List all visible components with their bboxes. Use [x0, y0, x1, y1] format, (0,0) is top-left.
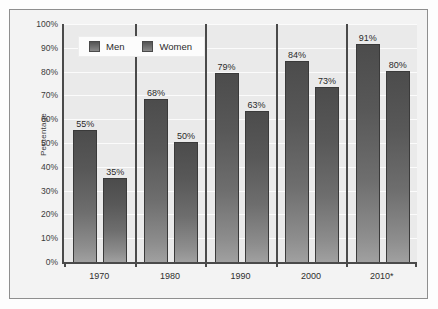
y-axis-tick-label: 10%: [41, 233, 58, 243]
bar-value-label: 73%: [318, 76, 336, 86]
x-axis-tick-label: 1980: [160, 271, 180, 281]
category-separator: [205, 24, 207, 262]
bar: 79%: [215, 73, 239, 262]
x-axis-tick-label: 2010*: [370, 271, 394, 281]
x-axis-tick-label: 1990: [230, 271, 250, 281]
bar-value-label: 35%: [106, 167, 124, 177]
y-axis-tick-label: 100%: [36, 19, 58, 29]
x-axis-tick: [135, 262, 137, 267]
y-axis-tick-label: 20%: [41, 209, 58, 219]
bar-value-label: 68%: [147, 88, 165, 98]
bar-value-label: 55%: [76, 119, 94, 129]
bar-value-label: 50%: [177, 131, 195, 141]
legend-label: Women: [159, 41, 192, 52]
y-axis-tick-label: 70%: [41, 90, 58, 100]
y-axis-tick-label: 80%: [41, 67, 58, 77]
y-axis-tick-label: 40%: [41, 162, 58, 172]
x-axis-tick: [64, 262, 66, 267]
x-axis-tick-label: 1970: [89, 271, 109, 281]
bar: 35%: [103, 178, 127, 262]
x-axis-tick: [415, 262, 417, 267]
y-axis-tick-label: 60%: [41, 114, 58, 124]
bar: 80%: [386, 71, 410, 262]
bar: 91%: [356, 44, 380, 262]
chart-frame: Percentage 0%10%20%30%40%50%60%70%80%90%…: [9, 9, 428, 299]
plot-wrapper: 0%10%20%30%40%50%60%70%80%90%100% 55%35%…: [62, 24, 415, 262]
bar-value-label: 63%: [247, 100, 265, 110]
bar-value-label: 91%: [359, 33, 377, 43]
chart-figure: Percentage 0%10%20%30%40%50%60%70%80%90%…: [0, 0, 438, 309]
y-axis-tick-label: 90%: [41, 43, 58, 53]
legend-entry: Women: [142, 41, 192, 52]
legend-swatch-icon: [89, 41, 100, 52]
category-separator: [346, 24, 348, 262]
bar: 68%: [144, 99, 168, 262]
legend-swatch-icon: [142, 41, 153, 52]
bar: 55%: [73, 130, 97, 262]
y-axis-tick-label: 50%: [41, 138, 58, 148]
y-axis-tick-label: 0%: [46, 257, 58, 267]
x-axis-tick: [205, 262, 207, 267]
x-axis-tick-label: 2000: [301, 271, 321, 281]
bar: 50%: [174, 142, 198, 262]
chart-legend: MenWomen: [78, 36, 205, 57]
legend-entry: Men: [89, 41, 124, 52]
bar: 84%: [285, 61, 309, 262]
x-axis-tick: [346, 262, 348, 267]
bar-value-label: 84%: [288, 50, 306, 60]
legend-label: Men: [106, 41, 124, 52]
plot-area: 0%10%20%30%40%50%60%70%80%90%100% 55%35%…: [62, 24, 417, 264]
gridline: [64, 24, 417, 25]
bar-value-label: 79%: [217, 62, 235, 72]
x-axis-tick: [276, 262, 278, 267]
category-separator: [135, 24, 137, 262]
bar-value-label: 80%: [389, 60, 407, 70]
y-axis-tick-label: 30%: [41, 186, 58, 196]
category-separator: [276, 24, 278, 262]
bar: 73%: [315, 87, 339, 262]
bar: 63%: [245, 111, 269, 262]
